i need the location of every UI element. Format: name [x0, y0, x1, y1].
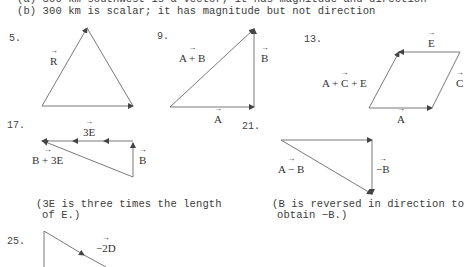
label-13-A: A — [397, 113, 405, 125]
label-9-A: A — [214, 113, 222, 125]
diagram-5 — [42, 28, 133, 106]
label-17-sum: B + 3E — [32, 154, 63, 166]
label-21-diff: A − B — [278, 163, 304, 175]
diagram-13 — [369, 52, 460, 108]
label-25-neg2D: −2D — [96, 242, 116, 254]
label-13-sum: A + C + E — [322, 77, 367, 89]
label-9-sum: A + B — [179, 52, 205, 64]
label-13-C: C — [456, 77, 463, 89]
note-21-line2: obtain −B.) — [277, 209, 347, 221]
label-5-R: R — [50, 55, 57, 67]
label-17-3E: 3E — [83, 126, 95, 138]
diagram-9 — [170, 29, 254, 107]
label-13-E: E — [428, 37, 435, 49]
label-17-B: B — [139, 154, 146, 166]
note-17-line2: of E.) — [42, 209, 80, 221]
label-21-negB: −B — [376, 163, 390, 175]
label-9-B: B — [261, 52, 268, 64]
